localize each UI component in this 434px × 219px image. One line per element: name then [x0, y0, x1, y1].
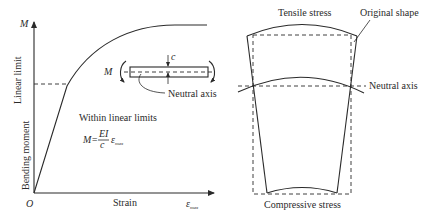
original-shape-rect: [253, 35, 351, 194]
region-label: Within linear limits: [79, 112, 157, 123]
bending-diagram: M Linear limit Bending moment O Strain ε…: [0, 0, 434, 219]
moment-arc-left: [120, 61, 126, 82]
moment-strain-chart: M Linear limit Bending moment O Strain ε…: [12, 18, 217, 210]
y-axis-label: Bending moment: [20, 121, 31, 190]
original-shape-leader: [354, 20, 370, 42]
depth-label: c: [171, 51, 176, 62]
x-axis-label: Strain: [113, 197, 137, 208]
neutral-axis-label: Neutral axis: [369, 80, 418, 91]
inset-neutral-axis-label: Neutral axis: [168, 88, 217, 99]
svg-text:εmax: εmax: [111, 134, 124, 146]
svg-text:M=: M=: [82, 134, 98, 145]
deformed-element-diagram: Tensile stress Original shape Neutral ax…: [238, 7, 419, 210]
moment-arc-right: [209, 61, 215, 82]
svg-text:c: c: [100, 139, 105, 150]
linear-limit-label: Linear limit: [12, 56, 23, 104]
origin-label: O: [26, 198, 33, 209]
top-arc: [247, 25, 357, 37]
right-side: [337, 36, 357, 193]
original-shape-label: Original shape: [360, 7, 419, 18]
compressive-stress-label: Compressive stress: [264, 199, 341, 210]
bottom-arc: [267, 188, 337, 194]
moment-strain-curve: [34, 25, 207, 193]
y-axis-symbol: M: [19, 18, 29, 29]
moment-label: M: [103, 66, 113, 77]
neutral-axis-arc: [238, 77, 364, 93]
tensile-stress-label: Tensile stress: [278, 7, 332, 18]
left-side: [247, 36, 267, 193]
beam-inset: M c Neutral axis: [103, 51, 217, 99]
svg-text:EI: EI: [98, 128, 109, 139]
formula: M= EI c εmax: [82, 128, 124, 150]
x-axis-symbol: εmax: [186, 198, 199, 210]
